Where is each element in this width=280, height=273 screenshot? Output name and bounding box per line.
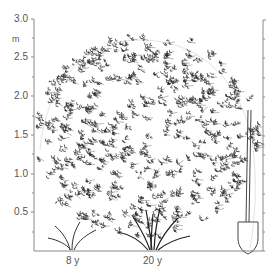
label-8-years: 8 y bbox=[66, 255, 79, 266]
y-tick-2-5: 2.5 bbox=[4, 51, 28, 62]
y-tick-3-0: 3.0 bbox=[4, 13, 28, 24]
y-axis-unit: m bbox=[12, 34, 20, 44]
y-tick-1-0: 1.0 bbox=[4, 168, 28, 179]
y-tick-0-5: 0.5 bbox=[4, 206, 28, 217]
y-tick-2-0: 2.0 bbox=[4, 90, 28, 101]
y-tick-1-5: 1.5 bbox=[4, 129, 28, 140]
shrub-growth-illustration bbox=[0, 0, 280, 273]
young-shrub-stems bbox=[48, 222, 96, 250]
y-axis bbox=[31, 19, 34, 251]
label-20-years: 20 y bbox=[143, 255, 162, 266]
foliage-sprays bbox=[35, 33, 264, 238]
